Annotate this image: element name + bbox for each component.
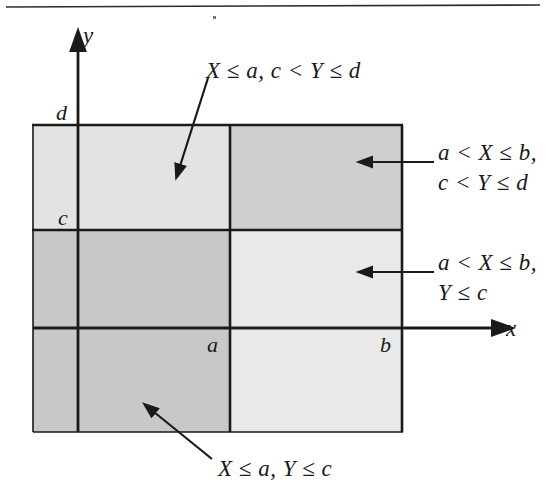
tick-label-b: b xyxy=(380,331,392,359)
tick-label-a: a xyxy=(207,331,219,359)
annotation-lower-left: X ≤ a, Y ≤ c xyxy=(218,455,332,484)
y-axis-label: y xyxy=(83,22,94,51)
annotation-lower-right: a < X ≤ b, Y ≤ c xyxy=(438,248,537,308)
tick-label-d: d xyxy=(56,99,68,127)
annotation-upper-left: X ≤ a, c < Y ≤ d xyxy=(206,57,361,86)
x-axis-label: x xyxy=(506,315,517,344)
annotation-upper-right: a < X ≤ b, c < Y ≤ d xyxy=(438,138,537,198)
page-speck xyxy=(213,16,216,19)
region-lower-left xyxy=(33,230,230,432)
tick-label-c: c xyxy=(58,204,68,232)
region-upper-right xyxy=(230,125,402,230)
region-lower-right xyxy=(230,230,402,432)
